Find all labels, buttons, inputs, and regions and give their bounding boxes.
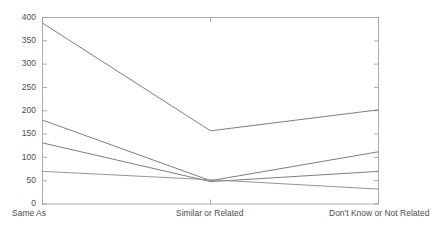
y-tick-label: 350 [10, 36, 36, 45]
y-tick-label: 150 [10, 129, 36, 138]
y-tick-label: 400 [10, 13, 36, 22]
plot-frame [43, 18, 379, 205]
y-tick-label: 0 [10, 199, 36, 208]
y-tick-label: 50 [10, 176, 36, 185]
y-tick-label: 250 [10, 83, 36, 92]
plot-area [0, 0, 435, 234]
x-tick-label-dont-know-or-not-related: Don't Know or Not Related [329, 208, 429, 218]
y-tick-label: 100 [10, 153, 36, 162]
x-tick-label-same-as: Same As [12, 208, 46, 218]
y-tick-label: 300 [10, 59, 36, 68]
line-chart: 400 350 300 250 200 150 100 50 0 Same As… [0, 0, 435, 234]
x-tick-label-similar-or-related: Similar or Related [176, 208, 244, 218]
y-tick-label: 200 [10, 106, 36, 115]
